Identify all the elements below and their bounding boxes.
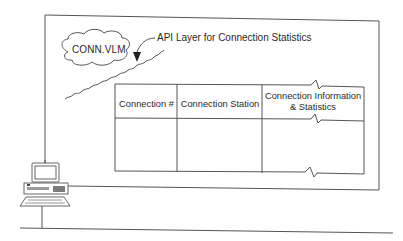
- api-pointer-line: [137, 38, 155, 52]
- desktop-computer-icon: [20, 163, 70, 206]
- network-line: [20, 228, 393, 233]
- column-header-connection-station: Connection Station: [178, 99, 262, 110]
- cloud-label: CONN.VLM: [72, 44, 126, 55]
- arrowhead-icon: [133, 52, 141, 62]
- column-header-connection-number: Connection #: [116, 99, 177, 110]
- api-layer-label: API Layer for Connection Statistics: [157, 32, 312, 43]
- column-header-connection-info: Connection Information & Statistics: [262, 91, 364, 113]
- column-header-line-2: & Statistics: [262, 102, 364, 113]
- column-header-line-1: Connection Information: [262, 91, 364, 102]
